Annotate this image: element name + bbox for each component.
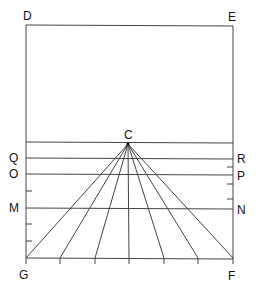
label-F: F (228, 270, 235, 282)
perspective-diagram (0, 0, 257, 294)
label-C: C (124, 129, 133, 141)
ray (26, 144, 128, 258)
ray (60, 144, 128, 258)
label-N: N (237, 204, 246, 216)
line-QR (26, 158, 233, 159)
ray (128, 144, 233, 258)
vanishing-point-C (126, 142, 129, 145)
ray (128, 144, 164, 258)
ray (128, 144, 198, 258)
ray (95, 144, 128, 258)
label-P: P (237, 170, 245, 182)
line-OP (26, 174, 233, 175)
horizon-line (26, 142, 233, 143)
label-Q: Q (9, 152, 18, 164)
label-R: R (237, 153, 246, 165)
label-E: E (228, 11, 236, 23)
label-D: D (23, 10, 32, 22)
edge-DE (26, 25, 233, 26)
label-G: G (19, 269, 28, 281)
label-M: M (9, 202, 19, 214)
label-O: O (9, 168, 18, 180)
line-MN (26, 208, 233, 209)
ray (128, 144, 129, 258)
